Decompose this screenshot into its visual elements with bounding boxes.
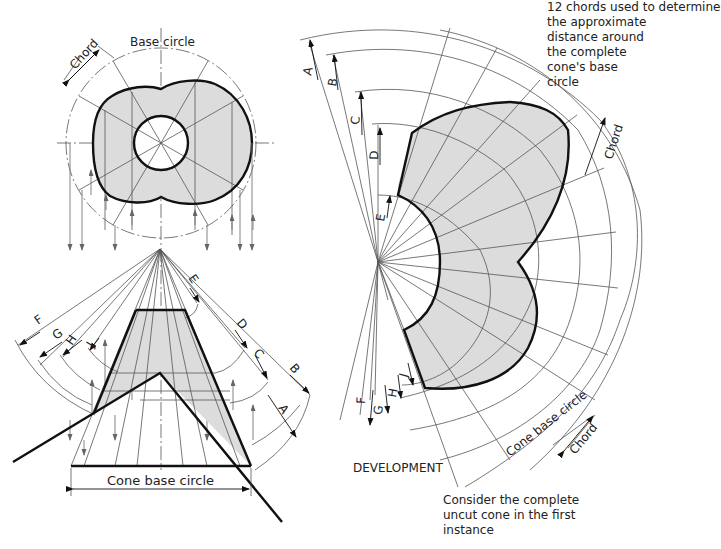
elevation-letter-j: J — [83, 339, 97, 350]
development-letter-f: F — [354, 397, 368, 404]
development-letter-g: G — [371, 405, 386, 415]
development-letter-a: A — [300, 65, 316, 77]
base-circle-label: Base circle — [130, 35, 195, 49]
elevation-letter-b: B — [287, 361, 303, 376]
development-letter-d: D — [367, 150, 381, 160]
development-letter-c: C — [348, 116, 363, 126]
elevation-letter-e: E — [186, 272, 202, 286]
development-chord-top-dimension — [585, 118, 605, 175]
development-letter-h: H — [385, 387, 400, 398]
development-view: A B C D E F G H J Chord Chord Cone base … — [300, 28, 642, 487]
note-uncut-cone: Consider the complete uncut cone in the … — [443, 493, 579, 538]
development-title: DEVELOPMENT — [353, 461, 443, 475]
plan-chord-label: Chord — [67, 36, 101, 72]
development-letter-e: E — [373, 213, 388, 223]
elevation-view: F G H J E D C B A Cone base circle — [13, 249, 310, 522]
elevation-letter-a: A — [276, 402, 293, 417]
elevation-letter-f: F — [32, 312, 46, 327]
note-chords: 12 chords used to determine the approxim… — [547, 0, 720, 90]
elevation-letter-c: C — [251, 346, 267, 361]
development-chord-bottom-label: Chord — [567, 421, 601, 457]
development-chord-top-label: Chord — [602, 123, 626, 161]
cone-base-circle-label: Cone base circle — [107, 473, 214, 488]
elevation-letter-h: H — [63, 332, 80, 347]
elevation-letter-d: D — [234, 316, 251, 332]
plan-view: Chord Base circle — [57, 28, 277, 470]
